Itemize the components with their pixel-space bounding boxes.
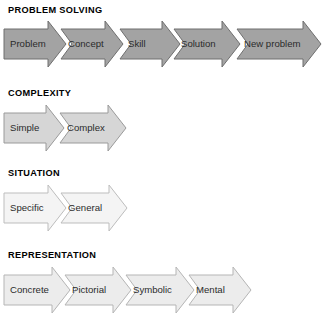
arrow-step-label: Solution (181, 38, 216, 49)
process-diagram: PROBLEM SOLVING ProblemConceptSkillSolut… (0, 0, 324, 324)
arrow-step-label: Symbolic (133, 284, 172, 295)
arrow-step-label: Concrete (10, 284, 49, 295)
arrow-chain (0, 104, 324, 152)
arrow-step-label: Mental (196, 284, 225, 295)
section-situation: SITUATION SpecificGeneral (0, 160, 324, 240)
arrow-row-representation: ConcretePictorialSymbolicMental (0, 266, 324, 314)
arrow-step-label: Pictorial (72, 284, 106, 295)
arrow-chain (0, 184, 324, 232)
arrow-row-problem-solving: ProblemConceptSkillSolutionNew problem (0, 20, 324, 68)
arrow-step-label: Simple (10, 122, 39, 133)
section-heading-representation: REPRESENTATION (8, 250, 96, 260)
arrow-step-label: Problem (10, 38, 46, 49)
arrow-step-label: Specific (10, 202, 44, 213)
arrow-step-label: New problem (244, 38, 301, 49)
arrow-step-label: Complex (67, 122, 105, 133)
section-problem-solving: PROBLEM SOLVING ProblemConceptSkillSolut… (0, 0, 324, 80)
arrow-step-label: General (68, 202, 102, 213)
section-heading-problem-solving: PROBLEM SOLVING (8, 5, 102, 15)
arrow-row-complexity: SimpleComplex (0, 104, 324, 152)
arrow-row-situation: SpecificGeneral (0, 184, 324, 232)
section-complexity: COMPLEXITY SimpleComplex (0, 80, 324, 160)
section-heading-complexity: COMPLEXITY (8, 88, 71, 98)
arrow-step-label: Concept (68, 38, 104, 49)
section-representation: REPRESENTATION ConcretePictorialSymbolic… (0, 240, 324, 324)
section-heading-situation: SITUATION (8, 168, 60, 178)
arrow-step-label: Skill (128, 38, 146, 49)
